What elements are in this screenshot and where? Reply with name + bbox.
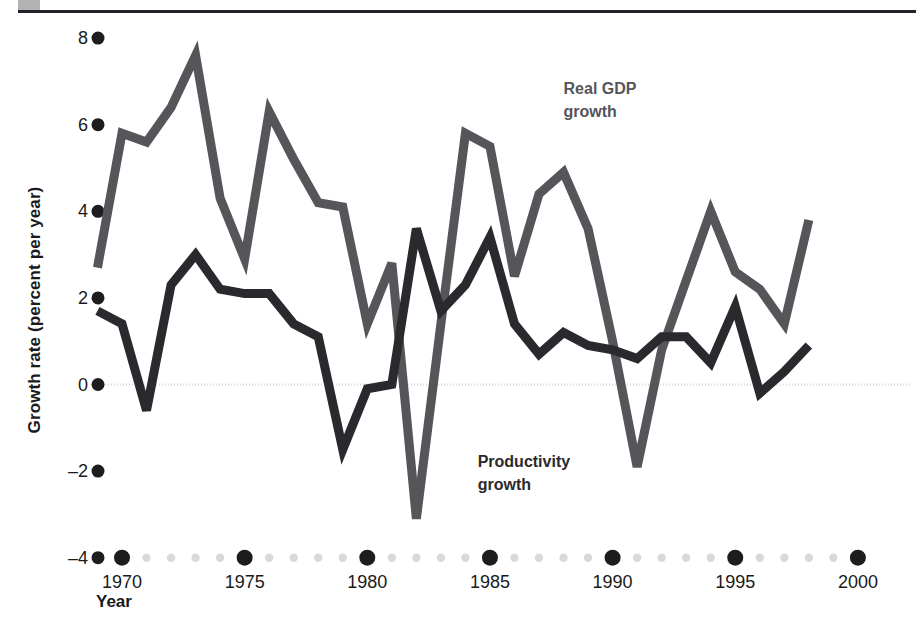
x-axis-minor-tick-dot <box>707 554 715 562</box>
series-annotation-label: growth <box>564 103 617 120</box>
y-axis-tick-label: –4 <box>68 548 88 568</box>
x-axis-minor-tick-dot <box>461 554 469 562</box>
x-axis-minor-tick-dot <box>437 554 445 562</box>
x-axis-tick-dot <box>850 550 866 566</box>
x-axis-tick-dot <box>482 550 498 566</box>
series-line <box>97 55 808 518</box>
x-axis-tick-label: 1995 <box>715 572 755 592</box>
x-axis-minor-tick-dot <box>510 554 518 562</box>
series-annotation-label: Real GDP <box>564 80 637 97</box>
x-axis-tick-label: 1980 <box>347 572 387 592</box>
x-axis-minor-tick-dot <box>265 554 273 562</box>
x-axis-tick-label: 1975 <box>225 572 265 592</box>
x-axis-minor-tick-dot <box>216 554 224 562</box>
x-axis-minor-tick-dot <box>633 554 641 562</box>
y-axis-tick-dot <box>92 118 105 131</box>
x-axis-tick-dot <box>359 550 375 566</box>
x-axis-tick-dot <box>727 550 743 566</box>
x-axis-tick-label: 2000 <box>838 572 878 592</box>
x-axis-minor-tick-dot <box>829 554 837 562</box>
x-axis-minor-tick-dot <box>756 554 764 562</box>
series-annotation-label: growth <box>478 476 531 493</box>
x-axis-label: Year <box>96 592 132 612</box>
x-axis-minor-tick-dot <box>559 554 567 562</box>
x-axis-minor-tick-dot <box>314 554 322 562</box>
x-axis-minor-tick-dot <box>584 554 592 562</box>
y-axis-tick-dot <box>92 291 105 304</box>
y-axis-tick-dot <box>92 465 105 478</box>
x-axis-minor-tick-dot <box>657 554 665 562</box>
x-axis-tick-label: 1985 <box>470 572 510 592</box>
y-axis-tick-dot <box>92 32 105 45</box>
y-axis-tick-label: 6 <box>78 115 88 135</box>
y-axis-tick-label: 8 <box>78 28 88 48</box>
y-axis-tick-label: –2 <box>68 461 88 481</box>
x-axis-minor-tick-dot <box>535 554 543 562</box>
x-axis-tick-dot <box>237 550 253 566</box>
x-axis-minor-tick-dot <box>142 554 150 562</box>
y-axis-label: Growth rate (percent per year) <box>25 80 45 540</box>
x-axis-minor-tick-dot <box>682 554 690 562</box>
x-axis-minor-tick-dot <box>412 554 420 562</box>
x-axis-minor-tick-dot <box>290 554 298 562</box>
x-axis-tick-dot <box>605 550 621 566</box>
x-axis-minor-tick-dot <box>388 554 396 562</box>
x-axis-minor-tick-dot <box>339 554 347 562</box>
series-annotation-label: Productivity <box>478 453 571 470</box>
chart-figure: 86420–2–41970197519801985199019952000Rea… <box>0 0 916 634</box>
y-axis-tick-label: 0 <box>78 375 88 395</box>
x-axis-tick-label: 1970 <box>102 572 142 592</box>
x-axis-minor-tick-dot <box>805 554 813 562</box>
x-axis-minor-tick-dot <box>191 554 199 562</box>
x-axis-minor-tick-dot <box>780 554 788 562</box>
y-axis-tick-dot <box>92 378 105 391</box>
line-chart-plot: 86420–2–41970197519801985199019952000Rea… <box>0 0 916 634</box>
x-axis-minor-tick-dot <box>167 554 175 562</box>
y-axis-tick-label: 2 <box>78 288 88 308</box>
y-axis-tick-dot <box>92 551 105 564</box>
x-axis-tick-label: 1990 <box>593 572 633 592</box>
x-axis-tick-dot <box>114 550 130 566</box>
y-axis-tick-label: 4 <box>78 201 88 221</box>
